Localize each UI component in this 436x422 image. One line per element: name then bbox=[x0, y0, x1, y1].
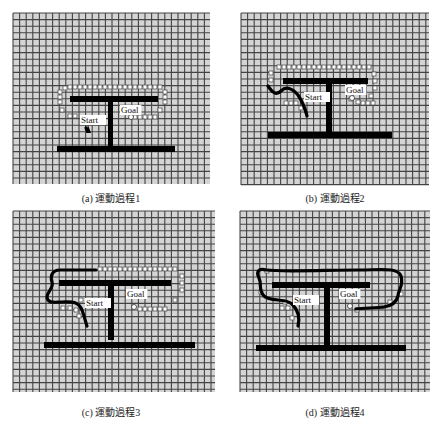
sensor-point-marker bbox=[180, 281, 184, 285]
sensor-point-marker bbox=[371, 101, 375, 105]
sensor-point-marker bbox=[163, 307, 167, 311]
sensor-point-marker bbox=[148, 267, 152, 271]
sensor-point-marker bbox=[286, 306, 290, 310]
sensor-point-marker bbox=[153, 267, 157, 271]
goal-label: Goal bbox=[127, 289, 145, 299]
sensor-point-marker bbox=[133, 85, 137, 89]
goal-label: Goal bbox=[121, 105, 139, 115]
sensor-point-marker bbox=[143, 85, 147, 89]
sensor-point-marker bbox=[153, 307, 157, 311]
sensor-point-marker bbox=[280, 306, 284, 310]
obstacle-wall bbox=[108, 280, 114, 340]
caption-panel-c: (c) 運動過程3 bbox=[71, 404, 151, 419]
sensor-point-marker bbox=[337, 65, 341, 69]
sensor-point-marker bbox=[61, 306, 65, 310]
sensor-point-marker bbox=[297, 65, 301, 69]
sensor-point-marker bbox=[163, 90, 167, 94]
obstacle-wall bbox=[326, 78, 332, 136]
sensor-point-marker bbox=[123, 85, 127, 89]
sensor-point-marker bbox=[352, 65, 356, 69]
sensor-point-marker bbox=[143, 267, 147, 271]
obstacle-wall bbox=[44, 342, 195, 348]
sensor-point-marker bbox=[294, 101, 298, 105]
sensor-point-marker bbox=[128, 85, 132, 89]
sensor-point-marker bbox=[356, 100, 360, 104]
sensor-point-marker bbox=[158, 307, 162, 311]
goal-marker bbox=[132, 305, 137, 310]
obstacle-wall bbox=[108, 96, 113, 150]
caption-panel-a: (a) 運動過程1 bbox=[71, 190, 151, 205]
sensor-point-marker bbox=[60, 108, 64, 112]
sensor-point-marker bbox=[173, 267, 177, 271]
sensor-point-marker bbox=[302, 65, 306, 69]
sensor-point-marker bbox=[68, 85, 72, 89]
caption-panel-d: (d) 運動過程4 bbox=[295, 404, 375, 419]
start-label: Start bbox=[81, 115, 98, 125]
sensor-point-marker bbox=[327, 65, 331, 69]
sensor-point-marker bbox=[108, 85, 112, 89]
sensor-point-marker bbox=[362, 65, 366, 69]
sensor-point-marker bbox=[180, 274, 184, 278]
goal-marker bbox=[350, 96, 355, 101]
sensor-point-marker bbox=[163, 95, 167, 99]
goal-marker bbox=[348, 304, 353, 309]
panel-d: StartGoal bbox=[240, 211, 430, 392]
sensor-point-marker bbox=[173, 298, 177, 302]
sensor-point-marker bbox=[138, 267, 142, 271]
sensor-point-marker bbox=[74, 308, 78, 312]
sensor-point-marker bbox=[143, 307, 147, 311]
sensor-point-marker bbox=[148, 115, 152, 119]
panel-c: StartGoal bbox=[13, 211, 215, 392]
start-label: Start bbox=[86, 298, 103, 308]
start-label: Start bbox=[305, 92, 322, 102]
sensor-point-marker bbox=[79, 298, 83, 302]
sensor-point-marker bbox=[322, 65, 326, 69]
sensor-point-marker bbox=[77, 314, 81, 318]
goal-label: Goal bbox=[340, 289, 358, 299]
sensor-point-marker bbox=[290, 316, 294, 320]
sensor-point-marker bbox=[73, 85, 77, 89]
sensor-point-marker bbox=[373, 86, 377, 90]
sensor-point-marker bbox=[143, 115, 147, 119]
sensor-point-marker bbox=[68, 306, 72, 310]
sensor-point-marker bbox=[163, 267, 167, 271]
sensor-point-marker bbox=[347, 65, 351, 69]
sensor-point-marker bbox=[88, 85, 92, 89]
sensor-point-marker bbox=[133, 267, 137, 271]
sensor-point-marker bbox=[108, 267, 112, 271]
sensor-point-marker bbox=[103, 85, 107, 89]
sensor-point-marker bbox=[317, 65, 321, 69]
obstacle-wall bbox=[59, 280, 171, 286]
sensor-point-marker bbox=[68, 114, 72, 118]
sensor-point-marker bbox=[93, 85, 97, 89]
figure-canvas: StartGoalStartGoalStartGoalStartGoal bbox=[0, 0, 436, 422]
sensor-point-marker bbox=[138, 115, 142, 119]
sensor-point-marker bbox=[153, 115, 157, 119]
obstacle-wall bbox=[268, 132, 392, 138]
sensor-point-marker bbox=[158, 267, 162, 271]
sensor-point-marker bbox=[63, 86, 67, 90]
sensor-point-marker bbox=[292, 65, 296, 69]
sensor-point-marker bbox=[158, 85, 162, 89]
sensor-point-marker bbox=[372, 72, 376, 76]
sensor-point-marker bbox=[168, 267, 172, 271]
sensor-point-marker bbox=[373, 79, 377, 83]
panel-b: StartGoal bbox=[241, 13, 429, 185]
sensor-point-marker bbox=[357, 65, 361, 69]
grid-background bbox=[240, 211, 430, 392]
sensor-point-marker bbox=[269, 78, 273, 82]
sensor-point-marker bbox=[289, 101, 293, 105]
obstacle-wall bbox=[70, 96, 158, 102]
sensor-point-marker bbox=[369, 94, 373, 98]
sensor-point-marker bbox=[366, 101, 370, 105]
sensor-point-marker bbox=[180, 288, 184, 292]
caption-panel-b: (b) 運動過程2 bbox=[295, 190, 375, 205]
goal-marker bbox=[129, 115, 134, 120]
sensor-point-marker bbox=[148, 307, 152, 311]
sensor-point-marker bbox=[73, 114, 77, 118]
sensor-point-marker bbox=[163, 100, 167, 104]
sensor-point-marker bbox=[113, 267, 117, 271]
sensor-point-marker bbox=[83, 85, 87, 89]
sensor-point-marker bbox=[332, 65, 336, 69]
sensor-point-marker bbox=[118, 267, 122, 271]
